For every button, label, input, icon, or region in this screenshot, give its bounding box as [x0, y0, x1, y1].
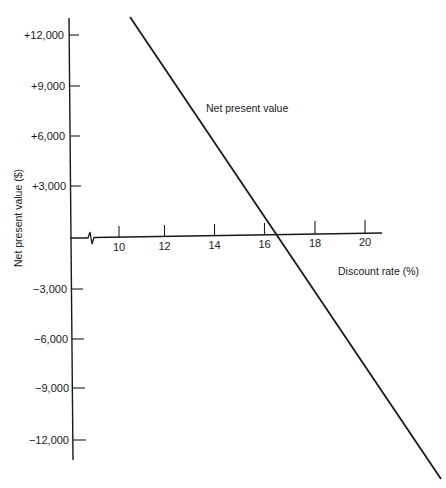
x-tick-label: 20 — [359, 236, 371, 248]
y-tick-label: −6,000 — [34, 333, 68, 345]
y-tick-label: +6,000 — [31, 130, 65, 142]
y-axis-title: Net present value ($) — [12, 169, 24, 267]
npv-line — [130, 17, 441, 479]
npv-chart: 10 12 14 16 18 20 +12,000 +9,000 +6,000 … — [0, 0, 446, 488]
x-tick-label: 14 — [208, 239, 220, 251]
y-tick-label: +9,000 — [31, 80, 65, 92]
x-tick-label: 10 — [113, 241, 125, 253]
y-tick-label: +3,000 — [32, 180, 66, 192]
y-tick-label: −3,000 — [33, 283, 67, 295]
x-tick-labels: 10 12 14 16 18 20 — [113, 236, 371, 253]
y-axis — [69, 18, 73, 460]
y-tick-label: −12,000 — [29, 434, 69, 446]
y-tick-label: +12,000 — [24, 29, 64, 41]
y-tick-label: −9,000 — [35, 382, 69, 394]
x-axis-title: Discount rate (%) — [338, 265, 419, 277]
y-tick-labels: +12,000 +9,000 +6,000 +3,000 −3,000 −6,0… — [24, 29, 69, 446]
x-tick-label: 18 — [309, 237, 321, 249]
x-tick-label: 16 — [258, 238, 270, 250]
npv-line-label: Net present value — [206, 102, 288, 114]
x-tick-label: 12 — [158, 240, 170, 252]
